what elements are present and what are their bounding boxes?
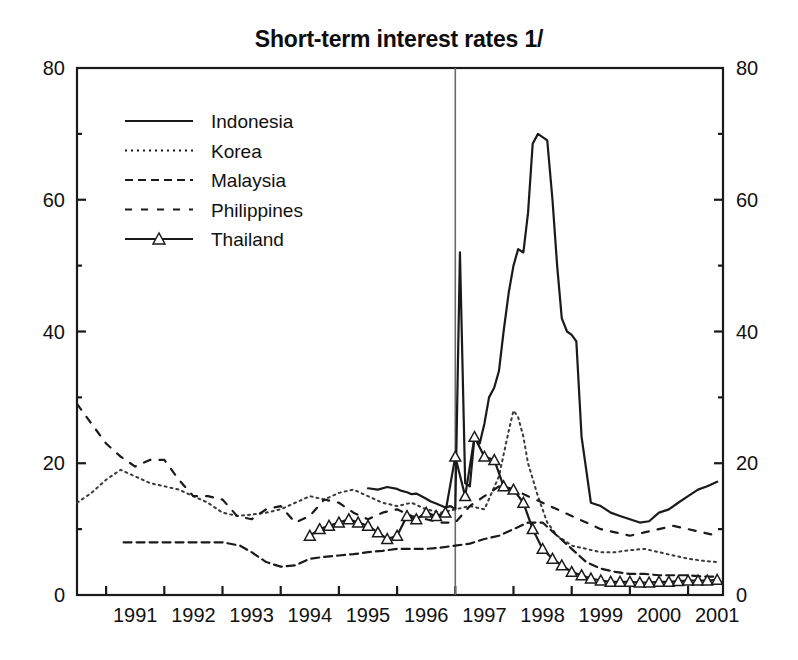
series-marker — [343, 514, 354, 524]
legend-item-philippines: Philippines — [125, 200, 303, 221]
series-indonesia — [368, 134, 717, 523]
series-marker — [392, 530, 403, 540]
x-axis-tick-label: 2000 — [637, 604, 682, 626]
legend-item-korea: Korea — [125, 141, 262, 162]
y-axis-tick-label-right: 60 — [736, 189, 758, 211]
series-marker — [469, 432, 480, 442]
x-axis-tick-label: 1997 — [462, 604, 507, 626]
series-line — [368, 134, 717, 523]
series-line — [124, 523, 718, 577]
legend-item-label: Korea — [211, 141, 262, 162]
series-marker — [460, 491, 471, 501]
legend-item-label: Malaysia — [211, 170, 286, 191]
x-axis-tick-label: 1995 — [346, 604, 391, 626]
y-axis-tick-label-left: 20 — [43, 452, 65, 474]
series-marker — [527, 524, 538, 534]
series-marker — [372, 527, 383, 537]
legend-item-label: Indonesia — [211, 111, 294, 132]
x-axis-tick-label: 1999 — [579, 604, 624, 626]
x-axis-tick-label: 1993 — [229, 604, 274, 626]
series-malaysia — [124, 523, 718, 577]
legend-item-malaysia: Malaysia — [125, 170, 286, 191]
legend-item-indonesia: Indonesia — [125, 111, 294, 132]
y-axis-tick-label-right: 80 — [736, 57, 758, 79]
x-axis-tick-label: 1994 — [288, 604, 333, 626]
chart-figure: Short-term interest rates 1/ 00202040406… — [0, 0, 798, 660]
x-axis-tick-label: 1996 — [404, 604, 449, 626]
y-axis-tick-label-right: 20 — [736, 452, 758, 474]
series-marker — [566, 567, 577, 577]
legend-item-label: Thailand — [211, 229, 284, 250]
series-thailand — [304, 432, 722, 587]
y-axis-tick-label-right: 0 — [736, 584, 747, 606]
y-axis-tick-label-left: 0 — [54, 584, 65, 606]
series-marker — [421, 507, 432, 517]
y-axis-tick-label-left: 80 — [43, 57, 65, 79]
series-marker — [304, 530, 315, 540]
legend-item-label: Philippines — [211, 200, 303, 221]
y-axis-tick-label-left: 60 — [43, 189, 65, 211]
x-axis-tick-label: 1991 — [113, 604, 158, 626]
y-axis-tick-label-right: 40 — [736, 321, 758, 343]
y-axis-tick-label-left: 40 — [43, 321, 65, 343]
x-axis-tick-label: 1992 — [171, 604, 216, 626]
series-marker — [479, 451, 490, 461]
series-marker — [537, 543, 548, 553]
x-axis-tick-label: 1998 — [520, 604, 565, 626]
plot-frame — [77, 68, 723, 595]
series-marker — [450, 451, 461, 461]
chart-plot-area: 0020204040606080801991199219931994199519… — [0, 0, 798, 660]
legend-item-thailand: Thailand — [125, 229, 284, 250]
series-line — [310, 437, 717, 583]
x-axis-tick-label: 2001 — [695, 604, 740, 626]
